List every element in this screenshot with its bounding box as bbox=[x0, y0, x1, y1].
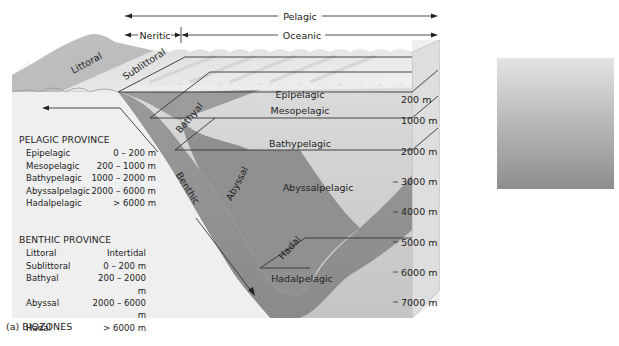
legend-row: Bathypelagic1000 – 2000 m bbox=[19, 172, 156, 184]
legend-row: Bathyal200 – 2000 m bbox=[19, 272, 146, 297]
benthic-province-legend: BENTHIC PROVINCE LittoralIntertidal Subl… bbox=[19, 234, 146, 334]
biozones-caption: (a) BIOZONES bbox=[6, 321, 72, 332]
abyssalpelagic-label: Abyssalpelagic bbox=[283, 182, 354, 193]
hadalpelagic-label: Hadalpelagic bbox=[271, 273, 333, 284]
bathypelagic-label: Bathypelagic bbox=[269, 138, 331, 149]
legend-row: Abyssal2000 – 6000 m bbox=[19, 297, 146, 322]
legend-row: LittoralIntertidal bbox=[19, 247, 146, 259]
neritic-label: Neritic bbox=[139, 30, 170, 41]
pelagic-province-legend: PELAGIC PROVINCE Epipelagic0 – 200 m Mes… bbox=[19, 134, 156, 209]
pelagic-label: Pelagic bbox=[283, 11, 317, 22]
light-zones-diagram bbox=[420, 0, 619, 346]
pelagic-arrow bbox=[125, 14, 438, 19]
epipelagic-label: Epipelagic bbox=[276, 89, 325, 100]
legend-row: Epipelagic0 – 200 m bbox=[19, 147, 156, 159]
legend-row: Abyssalpelagic2000 – 6000 m bbox=[19, 185, 156, 197]
pelagic-province-title: PELAGIC PROVINCE bbox=[19, 134, 156, 146]
legend-row: Mesopelagic200 – 1000 m bbox=[19, 160, 156, 172]
mesopelagic-label: Mesopelagic bbox=[270, 105, 329, 116]
legend-row: Sublittoral0 – 200 m bbox=[19, 260, 146, 272]
benthic-province-title: BENTHIC PROVINCE bbox=[19, 234, 146, 246]
oceanic-label: Oceanic bbox=[283, 30, 321, 41]
legend-row: Hadalpelagic> 6000 m bbox=[19, 197, 156, 209]
